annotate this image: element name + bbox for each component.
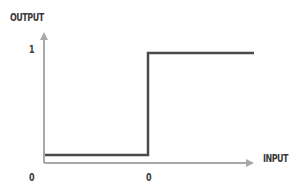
step-chart	[0, 0, 303, 193]
x-tick-step: 0	[146, 172, 151, 183]
x-tick-origin: 0	[29, 172, 34, 183]
y-axis-label: OUTPUT	[10, 12, 44, 23]
x-axis-label: INPUT	[263, 153, 288, 164]
step-line	[45, 53, 254, 155]
y-tick-1: 1	[29, 44, 34, 55]
